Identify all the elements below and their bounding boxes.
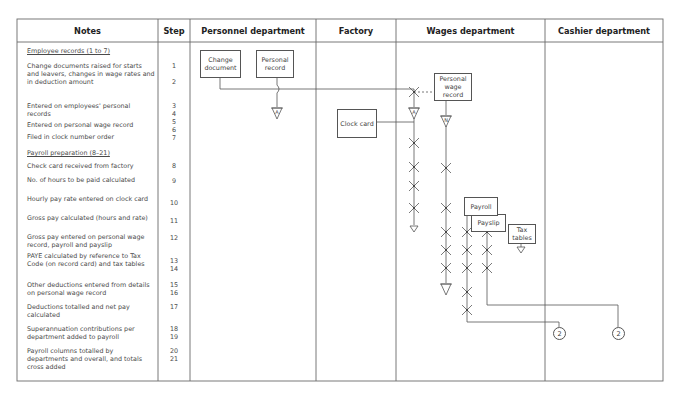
file-n-label: N (444, 117, 448, 123)
step-number: 6 (158, 126, 190, 134)
file-a-label: A (275, 109, 279, 115)
step-number: 15 (158, 281, 190, 289)
cashier-link-connector: 2 (553, 327, 566, 340)
personal-record-box: Personal record (256, 50, 294, 78)
note-item: Gross pay entered on personal wage recor… (27, 233, 155, 249)
note-item: Superannuation contributions per departm… (27, 325, 155, 341)
note-item: Other deductions entered from details on… (27, 281, 155, 297)
step-number: 12 (158, 234, 190, 242)
note-item: Entered on employees' personal records (27, 102, 155, 118)
cashier-link-connector: 2 (612, 327, 625, 340)
payslip-box: Payslip (471, 214, 506, 232)
file-a-label: A (412, 109, 416, 115)
step-number: 20 (158, 347, 190, 355)
header-personnel: Personnel department (190, 19, 316, 42)
step-number: 13 (158, 257, 190, 265)
note-item: Deductions totalled and net pay calculat… (27, 303, 155, 319)
note-item: No. of hours to be paid calculated (27, 176, 155, 184)
step-number: 2 (158, 78, 190, 86)
step-number: 17 (158, 303, 190, 311)
header-factory: Factory (316, 19, 396, 42)
step-number: 19 (158, 333, 190, 341)
step-number: 18 (158, 325, 190, 333)
tax-tables-box: Tax tables (508, 224, 536, 244)
note-item: PAYE calculated by reference to Tax Code… (27, 252, 155, 268)
flow-lines (220, 77, 618, 327)
note-item: Payroll columns totalled by departments … (27, 347, 155, 371)
step-number: 3 (158, 102, 190, 110)
clock-card-box: Clock card (337, 109, 377, 138)
step-number: 5 (158, 118, 190, 126)
step-number: 14 (158, 265, 190, 273)
personal-wage-record-box: Personal wage record (434, 73, 472, 101)
step-number: 10 (158, 199, 190, 207)
step-number: 21 (158, 355, 190, 363)
note-section-employee-records: Employee records (1 to 7) (27, 47, 155, 55)
step-number: 1 (158, 62, 190, 70)
header-wages: Wages department (396, 19, 545, 42)
step-number: 9 (158, 177, 190, 185)
payroll-box: Payroll (464, 197, 498, 216)
note-item: Gross pay calculated (hours and rate) (27, 214, 155, 222)
note-item: Entered on personal wage record (27, 121, 155, 129)
note-item: Change documents raised for starts and l… (27, 62, 155, 86)
note-item: Check card received from factory (27, 162, 155, 170)
note-item: Filed in clock number order (27, 133, 155, 141)
step-number: 4 (158, 110, 190, 118)
step-number: 16 (158, 289, 190, 297)
change-document-box: Change document (200, 50, 241, 78)
header-cashier: Cashier department (545, 19, 663, 42)
header-step: Step (158, 19, 190, 42)
step-number: 8 (158, 162, 190, 170)
note-section-payroll-preparation: Payroll preparation (8–21) (27, 149, 155, 157)
step-number: 7 (158, 134, 190, 142)
note-item: Hourly pay rate entered on clock card (27, 195, 155, 203)
step-number: 11 (158, 217, 190, 225)
header-notes: Notes (17, 19, 158, 42)
